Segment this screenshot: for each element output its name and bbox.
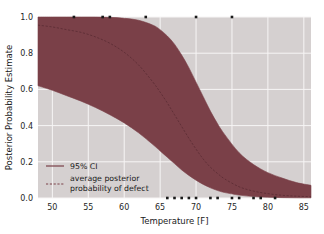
scatter-point: [259, 197, 262, 200]
x-tick-label: 55: [83, 203, 93, 212]
y-tick-label: 0.0: [20, 194, 33, 203]
scatter-point: [73, 16, 76, 19]
scatter-point: [109, 16, 112, 19]
y-axis-title: Posterior Probability Estimate: [4, 45, 14, 170]
chart-figure: 5055606570758085 0.00.20.40.60.81.0 Temp…: [0, 0, 324, 234]
y-tick-label: 0.8: [20, 49, 33, 58]
y-tick-label: 0.6: [20, 85, 33, 94]
scatter-point: [166, 197, 169, 200]
scatter-point: [173, 197, 176, 200]
y-tick-label: 1.0: [20, 13, 33, 22]
x-tick-label: 75: [227, 203, 237, 212]
x-tick-label: 65: [155, 203, 165, 212]
scatter-point: [144, 16, 147, 19]
x-axis-ticks: 5055606570758085: [47, 203, 309, 212]
y-tick-label: 0.4: [20, 122, 33, 131]
scatter-point: [252, 197, 255, 200]
legend-label-average-posterior: average posterior: [70, 174, 140, 183]
scatter-point: [231, 16, 234, 19]
y-axis-ticks: 0.00.20.40.60.81.0: [20, 13, 33, 203]
scatter-point: [195, 197, 198, 200]
scatter-point: [180, 197, 183, 200]
posterior-probability-chart: 5055606570758085 0.00.20.40.60.81.0 Temp…: [0, 0, 324, 234]
x-tick-label: 85: [299, 203, 309, 212]
x-tick-label: 70: [191, 203, 201, 212]
x-tick-label: 60: [119, 203, 129, 212]
legend-label-probability-of-defect: probability of defect: [70, 184, 149, 193]
x-axis-title: Temperature [F]: [139, 216, 208, 226]
scatter-point: [231, 197, 234, 200]
scatter-point: [188, 197, 191, 200]
x-tick-label: 80: [263, 203, 273, 212]
scatter-point: [238, 197, 241, 200]
legend-label-ci: 95% CI: [70, 162, 98, 171]
scatter-point: [195, 16, 198, 19]
x-tick-label: 50: [47, 203, 57, 212]
scatter-point: [101, 16, 104, 19]
scatter-point: [216, 197, 219, 200]
scatter-point: [274, 197, 277, 200]
scatter-point: [209, 197, 212, 200]
y-tick-label: 0.2: [20, 158, 33, 167]
